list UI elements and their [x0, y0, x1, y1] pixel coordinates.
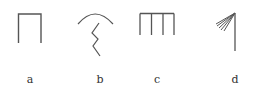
- panel-label-b: b: [96, 74, 103, 85]
- glyph-d-fan-icon: [216, 13, 235, 51]
- glyph-c-comb-icon: [140, 14, 174, 36]
- panel-label-a: a: [27, 74, 34, 85]
- glyph-a-bracket-icon: [19, 14, 42, 43]
- figure-canvas: [0, 0, 255, 100]
- panel-label-d: d: [231, 74, 238, 85]
- glyph-b-arc-zigzag-icon: [78, 14, 113, 56]
- panel-label-c: c: [154, 74, 160, 85]
